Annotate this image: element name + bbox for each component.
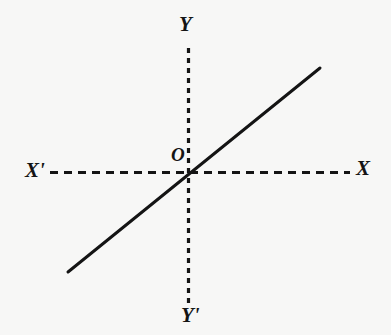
plotted-line <box>68 68 320 272</box>
y-axis-negative-label: Y' <box>181 305 200 326</box>
x-axis-positive-label: X <box>356 158 370 179</box>
x-axis-negative-label: X' <box>25 160 45 181</box>
figure-canvas: Y Y' X' X O <box>0 0 391 335</box>
origin-label: O <box>171 145 185 164</box>
axes-diagram-svg <box>0 0 391 335</box>
y-axis-positive-label: Y <box>179 14 192 35</box>
